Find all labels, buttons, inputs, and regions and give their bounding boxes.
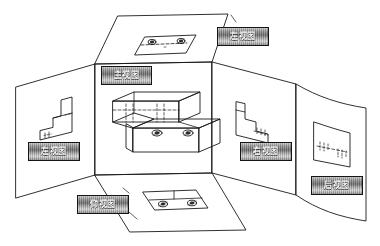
- label-top-right-view[interactable]: 左视图: [217, 27, 269, 46]
- projection-box-linework: [0, 0, 380, 246]
- label-left-view[interactable]: 左视图: [28, 142, 80, 161]
- right-view-drawing: [236, 102, 268, 143]
- label-left-view-text: 左视图: [41, 148, 67, 156]
- rear-panel-outline: [296, 84, 366, 221]
- leader-top-right: [231, 15, 236, 22]
- block-step-riser: [113, 113, 154, 128]
- label-top-right-view-text: 左视图: [230, 33, 256, 41]
- block-lower-left-face: [126, 124, 133, 152]
- bottom-view-split: [149, 198, 202, 200]
- label-rear-view[interactable]: 后视图: [311, 176, 363, 195]
- front-view-isometric-block: [113, 92, 220, 152]
- right-view-step-line: [236, 110, 245, 112]
- rear-view-drawing: [314, 122, 350, 167]
- right-view-outline: [236, 102, 268, 143]
- block-step-back-edge: [179, 122, 199, 128]
- rear-view-hidden-h: [317, 146, 347, 152]
- leader-bottom-2: [129, 212, 137, 219]
- label-rear-view-text: 后视图: [324, 182, 350, 190]
- block-lower-top-face: [133, 119, 220, 128]
- label-front-view[interactable]: 主视图: [101, 66, 152, 85]
- label-right-view[interactable]: 右视图: [240, 142, 292, 161]
- left-panel-outline: [16, 64, 95, 198]
- top-view-drawing: [135, 35, 196, 55]
- drawing-canvas: 左视图 主视图 左视图 右视图 后视图 仰视图: [0, 0, 380, 246]
- block-upper-right-face: [179, 92, 200, 122]
- top-panel-outline: [95, 14, 228, 64]
- rear-view-outline: [314, 122, 350, 167]
- label-bottom-view-text: 仰视图: [90, 201, 116, 209]
- label-front-view-text: 主视图: [114, 72, 140, 80]
- label-bottom-view[interactable]: 仰视图: [77, 195, 129, 214]
- bottom-view-drawing: [143, 190, 208, 210]
- left-view-drawing: [40, 97, 72, 140]
- block-lower-right-face: [199, 119, 220, 152]
- leader-bottom: [123, 188, 129, 193]
- right-panel-outline: [212, 62, 296, 195]
- label-right-view-text: 右视图: [253, 148, 279, 156]
- block-upper-top-face: [113, 92, 200, 101]
- left-view-step-line: [53, 113, 72, 118]
